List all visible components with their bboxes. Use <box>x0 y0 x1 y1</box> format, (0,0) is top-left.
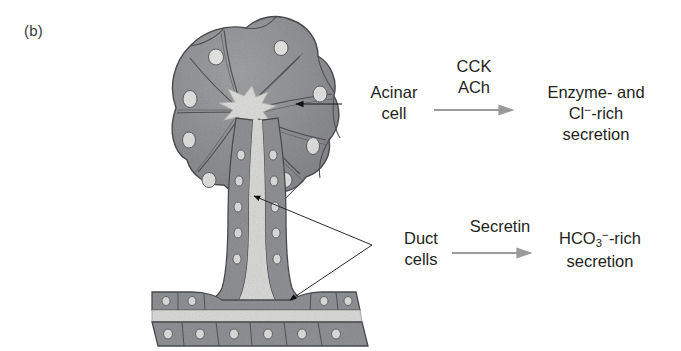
output-bottom-line2: secretion <box>567 252 634 270</box>
chloride-symbol: Cl <box>569 104 585 122</box>
collecting-duct-group <box>152 292 368 346</box>
stimulus-secretin: Secretin <box>470 217 531 235</box>
stimulus-ach: ACh <box>458 78 490 96</box>
bicarbonate-suffix: -rich <box>609 229 641 247</box>
bicarbonate-symbol: HCO <box>559 229 596 247</box>
duct-cells-label-line2: cells <box>404 250 437 268</box>
chloride-suffix: -rich <box>591 104 623 122</box>
output-label-top: Enzyme- and Cl−-rich secretion <box>520 82 672 145</box>
acinar-cell-label: Acinar cell <box>348 82 440 124</box>
figure-panel-b: (b) <box>0 0 681 351</box>
collecting-duct-lumen <box>152 310 362 322</box>
bicarbonate-charge: − <box>602 228 609 242</box>
output-top-line2: Cl−-rich <box>569 104 624 122</box>
output-label-bottom: HCO3−-rich secretion <box>530 228 670 272</box>
output-top-line1: Enzyme- and <box>547 83 644 101</box>
duct-cells-label-line1: Duct <box>404 229 438 247</box>
duct-cells-label: Duct cells <box>382 228 460 270</box>
acinar-cell-label-line2: cell <box>382 104 407 122</box>
pancreatic-acinus-illustration <box>0 0 681 351</box>
stimulus-label-top: CCK ACh <box>432 56 516 98</box>
output-bottom-line1: HCO3−-rich <box>559 229 641 247</box>
output-top-line3: secretion <box>563 125 630 143</box>
acinar-cell-label-line1: Acinar <box>371 83 418 101</box>
stimulus-cck: CCK <box>457 57 492 75</box>
